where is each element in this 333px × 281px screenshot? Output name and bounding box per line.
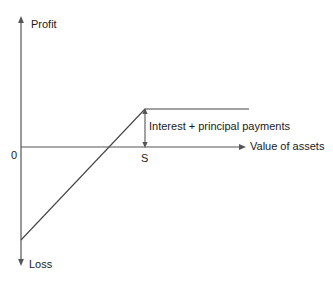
y-axis-down-arrowhead xyxy=(18,259,24,266)
y-axis-up-arrowhead xyxy=(18,16,24,23)
payments-annotation-label: Interest + principal payments xyxy=(149,121,290,132)
origin-label: 0 xyxy=(11,150,17,161)
strike-label-s: S xyxy=(141,153,148,164)
x-axis-label-value-of-assets: Value of assets xyxy=(250,141,324,152)
y-axis-label-profit: Profit xyxy=(31,19,57,30)
x-axis-right-arrowhead xyxy=(239,144,246,150)
y-axis-label-loss: Loss xyxy=(29,259,52,270)
payoff-diagram: Profit 0 Loss S Interest + principal pay… xyxy=(0,0,333,281)
payoff-rising-segment xyxy=(21,109,145,240)
